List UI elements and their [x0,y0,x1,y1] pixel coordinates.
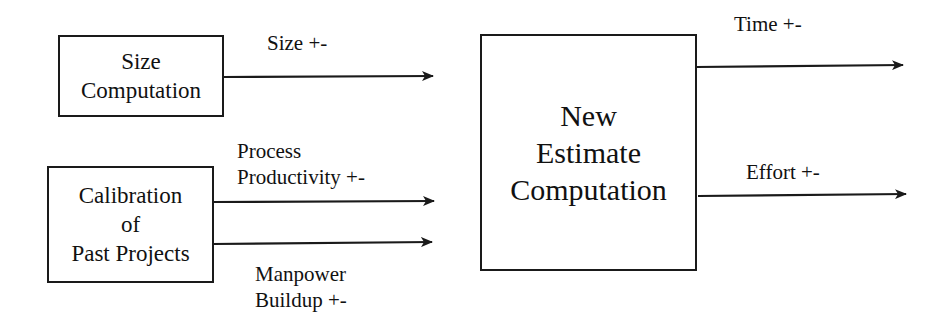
edge-label-size: Size +- [267,30,327,56]
edge-label-line: Buildup +- [255,287,347,313]
edge-label-productivity: Process Productivity +- [237,138,365,190]
arrow-manpower [213,242,432,244]
new-estimate-computation-box: New Estimate Computation [480,34,697,271]
arrow-size [224,76,433,77]
arrow-effort [698,194,906,196]
edge-label-manpower: Manpower Buildup +- [255,261,347,313]
edge-label-line: Productivity +- [237,164,365,190]
box-label-line: Computation [81,76,201,105]
box-label-line: of [121,210,140,239]
box-label-line: Calibration [79,181,182,210]
edge-label-time: Time +- [734,11,802,37]
arrow-time [696,65,903,67]
size-computation-box: Size Computation [58,35,224,117]
box-label-line: Estimate [536,134,641,171]
edge-label-line: Manpower [255,261,347,287]
box-label-line: New [560,97,617,134]
box-label-line: Size [121,47,161,76]
box-label-line: Past Projects [71,239,189,268]
box-label-line: Computation [510,171,667,208]
calibration-box: Calibration of Past Projects [47,166,214,283]
arrow-productivity [213,201,434,202]
edge-label-effort: Effort +- [746,159,820,185]
edge-label-line: Process [237,138,365,164]
